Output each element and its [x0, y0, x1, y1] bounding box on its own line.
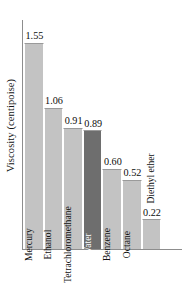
bar-tetrachloromethane: Tetrachloromethane — [63, 128, 83, 249]
bar-category-text: Water — [83, 233, 93, 256]
bar-category-text: Mercury — [24, 228, 34, 261]
y-axis-title-label: Viscosity (centipoise) — [6, 78, 17, 171]
bar-mercury: Mercury — [24, 43, 44, 249]
bar-value-label: 0.89 — [84, 119, 102, 129]
bar-category-text: Benzene — [103, 228, 113, 261]
bar-value-label: 1.06 — [45, 96, 63, 106]
bar-ethanol: Ethanol — [44, 108, 64, 249]
bar-value-label: 0.60 — [104, 157, 122, 167]
bar-category-text: Tetrachloromethane — [63, 206, 73, 283]
bar-category-text: Diethyl ether — [146, 153, 156, 203]
y-axis-title: Viscosity (centipoise) — [0, 0, 22, 250]
bar-octane: Octane — [122, 180, 142, 249]
plot-area: MercuryEthanolTetrachloromethaneWaterBen… — [22, 18, 182, 250]
bar-water: Water — [83, 130, 103, 248]
bar-value-label: 0.22 — [143, 208, 161, 218]
bar-value-label: 1.55 — [26, 31, 44, 41]
bar-diethyl-ether — [142, 219, 162, 248]
bar-value-label: 0.52 — [124, 168, 142, 178]
bar-value-label: 0.91 — [65, 116, 83, 126]
bar-category-text: Octane — [122, 231, 132, 258]
